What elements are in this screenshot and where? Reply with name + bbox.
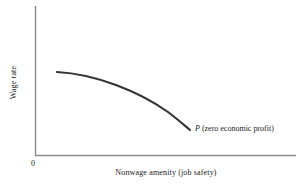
isoprofit-curve	[57, 72, 190, 130]
plot-area	[0, 0, 304, 186]
origin-label: 0	[31, 159, 35, 168]
point-p-description: (zero economic profit)	[200, 124, 274, 133]
x-axis-label: Nonwage amenity (job safety)	[35, 168, 297, 177]
y-axis-label: Wage rate	[9, 53, 18, 113]
figure-container: Wage rate Nonwage amenity (job safety) 0…	[0, 0, 304, 186]
point-p-annotation: P (zero economic profit)	[195, 124, 274, 133]
